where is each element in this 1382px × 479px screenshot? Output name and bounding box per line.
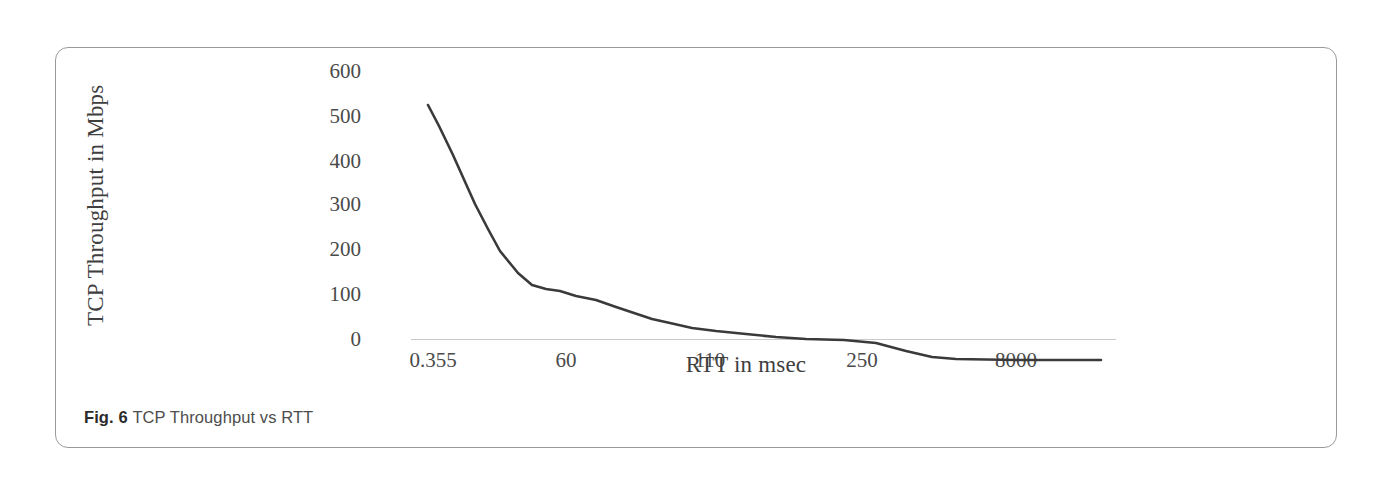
chart-svg [56,48,1338,388]
figure-caption: Fig. 6 TCP Throughput vs RTT [84,408,313,427]
series-line-tcp-throughput [428,105,1101,360]
figure-card: TCP Throughput in Mbps 0 100 200 300 400… [55,47,1337,448]
chart-plot-area: TCP Throughput in Mbps 0 100 200 300 400… [56,48,1338,388]
figure-caption-text: TCP Throughput vs RTT [132,408,313,426]
figure-caption-label: Fig. 6 [84,408,128,426]
